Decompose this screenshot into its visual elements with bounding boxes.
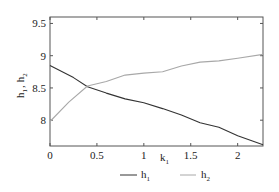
series-line-h2: [50, 54, 263, 121]
x-tick-label: 2: [235, 149, 241, 161]
y-tick-label: 8.5: [32, 82, 46, 94]
axes-box: [50, 17, 263, 146]
y-axis-label: h1,h2: [14, 73, 29, 98]
x-tick-label: 1: [141, 149, 147, 161]
y-tick-label: 9.5: [32, 17, 46, 29]
legend-label-h1: h1: [141, 168, 151, 183]
x-tick-label: 0.5: [90, 149, 104, 161]
line-chart: 00.511.52 88.599.5 k1 h1,h2 h1 h2: [0, 0, 279, 192]
legend: h1 h2: [120, 168, 211, 183]
legend-item-h2: h2: [180, 168, 211, 183]
x-axis-label: k1: [160, 151, 170, 166]
legend-label-h2: h2: [201, 168, 211, 183]
legend-item-h1: h1: [120, 168, 151, 183]
y-tick-label: 9: [41, 50, 47, 62]
series-lines: [50, 54, 263, 144]
x-tick-label: 0: [47, 149, 53, 161]
x-axis-ticks: 00.511.52: [47, 17, 240, 161]
plot-area: [50, 17, 263, 146]
x-tick-label: 1.5: [184, 149, 198, 161]
y-tick-label: 8: [41, 114, 47, 126]
series-line-h1: [50, 65, 263, 144]
y-axis-ticks: 88.599.5: [32, 17, 263, 126]
